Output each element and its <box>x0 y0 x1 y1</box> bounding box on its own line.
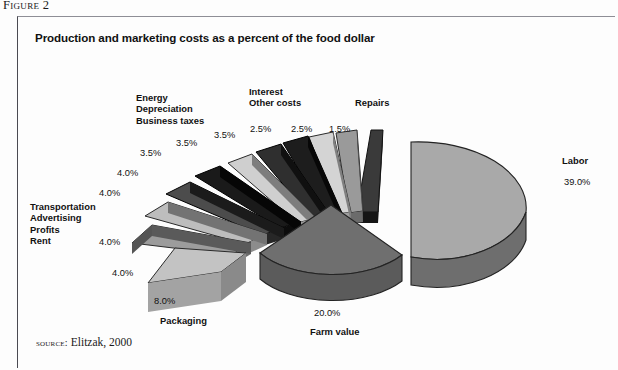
label-transportation: Transportation <box>30 201 96 212</box>
source-note: source: Elitzak, 2000 <box>36 336 132 348</box>
label-farm-value: Farm value <box>310 326 360 337</box>
label-other-costs: Other costs <box>249 97 301 108</box>
source-text: Elitzak, 2000 <box>71 336 132 348</box>
pct-business-taxes: 3.5% <box>214 130 235 141</box>
figure-container: Figure 2 Production and marketing costs … <box>0 0 618 370</box>
pct-packaging: 8.0% <box>154 296 175 307</box>
pct-interest: 2.5% <box>250 124 271 135</box>
pct-repairs: 1.5% <box>329 124 350 135</box>
pie-chart <box>0 0 618 370</box>
pct-other-costs: 2.5% <box>291 124 312 135</box>
label-energy: Energy <box>136 92 204 103</box>
pct-profits: 4.0% <box>99 188 120 199</box>
label-group-left: Transportation Advertising Profits Rent <box>30 201 96 246</box>
pct-advertising: 4.0% <box>99 237 120 248</box>
pct-labor: 39.0% <box>564 177 590 188</box>
pct-transportation: 4.0% <box>112 268 133 279</box>
label-packaging: Packaging <box>160 315 207 326</box>
slice-labor <box>411 142 526 287</box>
label-group-energy: Energy Depreciation Business taxes <box>136 92 204 126</box>
pct-farm-value: 20.0% <box>314 308 340 319</box>
label-profits: Profits <box>30 224 96 235</box>
source-prefix: source: <box>36 337 68 348</box>
label-depreciation: Depreciation <box>136 103 204 114</box>
pct-rent: 4.0% <box>117 168 138 179</box>
label-advertising: Advertising <box>30 212 96 223</box>
label-business-taxes: Business taxes <box>136 115 204 126</box>
label-labor: Labor <box>562 155 588 166</box>
pct-depreciation: 3.5% <box>176 138 197 149</box>
label-group-interest: Interest Other costs <box>249 86 301 109</box>
label-interest: Interest <box>249 86 301 97</box>
label-rent: Rent <box>30 235 96 246</box>
pct-energy: 3.5% <box>140 148 161 159</box>
label-repairs: Repairs <box>355 97 389 108</box>
